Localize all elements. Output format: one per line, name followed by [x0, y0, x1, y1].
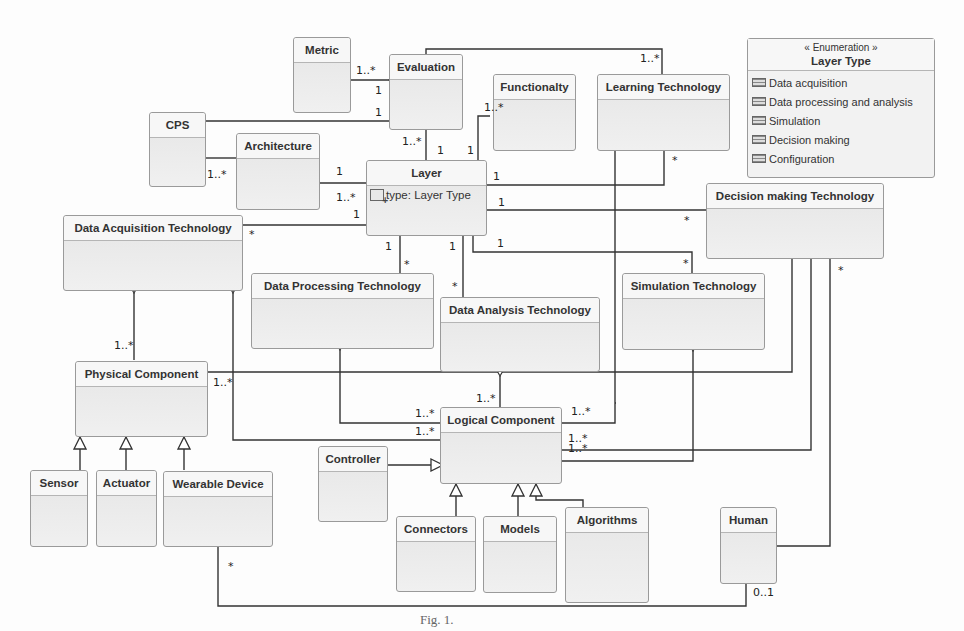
- class-layer[interactable]: Layer type: Layer Type: [366, 160, 487, 236]
- enum-name: Layer Type: [748, 55, 934, 67]
- multiplicity-label: 1..*: [207, 168, 227, 181]
- class-physical-component[interactable]: Physical Component: [75, 361, 208, 437]
- enum-literal: Data acquisition: [748, 73, 934, 92]
- multiplicity-label: *: [228, 560, 234, 573]
- class-logical-component[interactable]: Logical Component: [440, 407, 562, 484]
- multiplicity-label: 1: [385, 240, 392, 253]
- figure-caption: Fig. 1.: [420, 612, 454, 628]
- class-functionality[interactable]: Functionalty: [493, 74, 576, 151]
- multiplicity-label: *: [404, 258, 410, 271]
- multiplicity-label: 1..*: [484, 101, 504, 114]
- enum-literal: Data processing and analysis: [748, 92, 934, 111]
- class-name: Data Acquisition Technology: [64, 216, 242, 241]
- class-name: Sensor: [31, 471, 87, 496]
- multiplicity-label: 1: [493, 170, 500, 183]
- enum-header: « Enumeration » Layer Type: [748, 39, 934, 71]
- class-name: Physical Component: [76, 362, 207, 387]
- class-name: Models: [484, 517, 556, 542]
- class-name: Controller: [319, 447, 387, 472]
- class-metric[interactable]: Metric: [293, 37, 351, 113]
- class-decision-making-technology[interactable]: Decision making Technology: [706, 183, 884, 259]
- layer-type-attribute: type: Layer Type: [367, 186, 486, 204]
- class-sensor[interactable]: Sensor: [30, 470, 88, 547]
- multiplicity-label: 1: [449, 240, 456, 253]
- class-name: CPS: [150, 113, 205, 138]
- class-name: Metric: [294, 38, 350, 63]
- class-name: Data Processing Technology: [252, 274, 433, 299]
- multiplicity-label: 1..*: [402, 135, 422, 148]
- literal-icon: [752, 135, 766, 144]
- class-architecture[interactable]: Architecture: [236, 133, 320, 210]
- multiplicity-label: *: [249, 228, 255, 241]
- class-data-analysis-technology[interactable]: Data Analysis Technology: [440, 297, 600, 372]
- class-name: Layer: [367, 161, 486, 186]
- class-name: Human: [721, 508, 776, 533]
- enum-stereotype: « Enumeration »: [748, 42, 934, 53]
- class-evaluation[interactable]: Evaluation: [389, 54, 463, 130]
- multiplicity-label: 1..*: [336, 191, 356, 204]
- multiplicity-label: 1: [375, 106, 382, 119]
- literal-icon: [752, 97, 766, 106]
- multiplicity-label: 1: [375, 84, 382, 97]
- multiplicity-label: 1: [437, 144, 444, 157]
- class-models[interactable]: Models: [483, 516, 557, 593]
- class-name: Evaluation: [390, 55, 462, 80]
- multiplicity-label: 1: [498, 196, 505, 209]
- class-connectors[interactable]: Connectors: [396, 516, 476, 592]
- multiplicity-label: *: [683, 257, 689, 270]
- class-name: Decision making Technology: [707, 184, 883, 209]
- class-name: Algorithms: [566, 508, 648, 533]
- class-name: Wearable Device: [164, 472, 272, 497]
- attribute-icon: [370, 189, 384, 201]
- multiplicity-label: *: [672, 154, 678, 167]
- multiplicity-label: 1..*: [476, 392, 496, 405]
- multiplicity-label: *: [684, 214, 690, 227]
- multiplicity-label: 1..*: [213, 376, 233, 389]
- enumeration-layer-type[interactable]: « Enumeration » Layer Type Data acquisit…: [747, 38, 935, 178]
- multiplicity-label: 1..*: [640, 52, 660, 65]
- class-name: Functionalty: [494, 75, 575, 100]
- multiplicity-label: 1..*: [415, 407, 435, 420]
- attribute-text: type: Layer Type: [386, 189, 471, 201]
- class-data-processing-technology[interactable]: Data Processing Technology: [251, 273, 434, 349]
- multiplicity-label: 1..*: [568, 442, 588, 455]
- enum-literal: Decision making: [748, 130, 934, 149]
- class-name: Connectors: [397, 517, 475, 542]
- class-human[interactable]: Human: [720, 507, 777, 584]
- class-simulation-technology[interactable]: Simulation Technology: [622, 273, 765, 350]
- multiplicity-label: 1: [353, 208, 360, 221]
- literal-icon: [752, 116, 766, 125]
- multiplicity-label: 0..1: [753, 586, 774, 599]
- multiplicity-label: 1..*: [415, 425, 435, 438]
- multiplicity-label: 1: [497, 237, 504, 250]
- multiplicity-label: 1: [467, 144, 474, 157]
- enum-literal: Simulation: [748, 111, 934, 130]
- class-data-acquisition-technology[interactable]: Data Acquisition Technology: [63, 215, 243, 291]
- class-algorithms[interactable]: Algorithms: [565, 507, 649, 603]
- class-wearable-device[interactable]: Wearable Device: [163, 471, 273, 547]
- class-name: Learning Technology: [598, 75, 729, 100]
- multiplicity-label: 1..*: [571, 405, 591, 418]
- multiplicity-label: 1..*: [356, 64, 376, 77]
- class-name: Simulation Technology: [623, 274, 764, 299]
- enum-literal: Configuration: [748, 149, 934, 168]
- class-learning-technology[interactable]: Learning Technology: [597, 74, 730, 151]
- uml-class-diagram: Metric Evaluation Functionalty Learning …: [0, 0, 964, 631]
- multiplicity-label: 1: [336, 165, 343, 178]
- class-name: Logical Component: [441, 408, 561, 433]
- class-controller[interactable]: Controller: [318, 446, 388, 522]
- multiplicity-label: *: [838, 264, 844, 277]
- multiplicity-label: 1..*: [114, 339, 134, 352]
- class-cps[interactable]: CPS: [149, 112, 206, 187]
- literal-icon: [752, 154, 766, 163]
- literal-icon: [752, 78, 766, 87]
- class-actuator[interactable]: Actuator: [96, 470, 157, 547]
- class-name: Actuator: [97, 471, 156, 496]
- class-name: Data Analysis Technology: [441, 298, 599, 323]
- class-name: Architecture: [237, 134, 319, 159]
- multiplicity-label: *: [452, 280, 458, 293]
